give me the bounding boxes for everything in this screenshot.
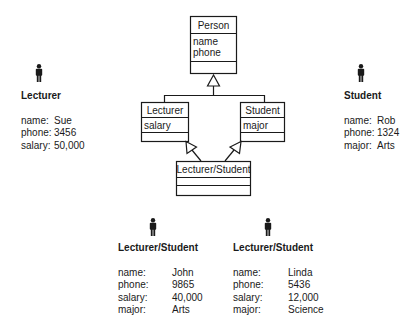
field-label: salary: bbox=[233, 292, 288, 305]
object-lecturer: Lecturer name: Sue phone: 3456 salary: 5… bbox=[21, 90, 85, 152]
field-value: 12,000 bbox=[288, 292, 319, 305]
field-label: name: bbox=[118, 267, 172, 280]
person-icon bbox=[358, 64, 364, 82]
object-title: Lecturer/Student bbox=[233, 242, 324, 255]
object-field: major: Arts bbox=[344, 140, 399, 153]
object-field: phone: 5436 bbox=[233, 279, 324, 292]
field-label: salary: bbox=[118, 292, 172, 305]
class-person-attr-name: name bbox=[193, 36, 218, 47]
field-label: major: bbox=[233, 304, 288, 317]
field-value: Science bbox=[288, 304, 324, 317]
object-field: salary: 12,000 bbox=[233, 292, 324, 305]
field-label: major: bbox=[344, 140, 377, 153]
class-lecturer-attr-salary: salary bbox=[144, 120, 171, 131]
object-field: name: Sue bbox=[21, 115, 85, 128]
object-lecturer-student-linda: Lecturer/Student name: Linda phone: 5436… bbox=[233, 242, 324, 317]
class-student-name: Student bbox=[245, 105, 280, 116]
field-label: phone: bbox=[344, 127, 377, 140]
class-diagram: Person name phone Lecturer salary Studen… bbox=[0, 0, 416, 332]
field-value: John bbox=[172, 267, 194, 280]
field-value: Arts bbox=[172, 304, 190, 317]
class-person-name: Person bbox=[198, 20, 230, 31]
field-label: name: bbox=[21, 115, 54, 128]
object-field: salary: 40,000 bbox=[118, 292, 203, 305]
object-field: name: John bbox=[118, 267, 203, 280]
object-field: name: Rob bbox=[344, 115, 399, 128]
field-label: phone: bbox=[118, 279, 172, 292]
object-student: Student name: Rob phone: 1324 major: Art… bbox=[344, 90, 399, 152]
object-title: Student bbox=[344, 90, 399, 103]
generalization-arrow-to-lecturer bbox=[186, 142, 201, 162]
object-field: major: Science bbox=[233, 304, 324, 317]
person-icon bbox=[150, 218, 156, 236]
object-title: Lecturer bbox=[21, 90, 85, 103]
object-field: phone: 1324 bbox=[344, 127, 399, 140]
object-field: major: Arts bbox=[118, 304, 203, 317]
object-field: phone: 9865 bbox=[118, 279, 203, 292]
class-person-attr-phone: phone bbox=[193, 47, 221, 58]
person-icon bbox=[36, 64, 42, 82]
field-value: 1324 bbox=[377, 127, 399, 140]
class-student-attr-major: major bbox=[243, 120, 269, 131]
field-value: 5436 bbox=[288, 279, 310, 292]
object-field: salary: 50,000 bbox=[21, 140, 85, 153]
field-label: phone: bbox=[233, 279, 288, 292]
class-lecturer-name: Lecturer bbox=[147, 105, 184, 116]
field-label: name: bbox=[344, 115, 377, 128]
class-lecturer-student-name: Lecturer/Student bbox=[177, 164, 251, 175]
generalization-arrow-to-person bbox=[165, 75, 265, 102]
object-field: phone: 3456 bbox=[21, 127, 85, 140]
field-value: 50,000 bbox=[54, 140, 85, 153]
field-value: 3456 bbox=[54, 127, 76, 140]
field-label: phone: bbox=[21, 127, 54, 140]
generalization-arrow-to-student bbox=[225, 142, 241, 162]
field-label: major: bbox=[118, 304, 172, 317]
field-value: Linda bbox=[288, 267, 312, 280]
field-value: 40,000 bbox=[172, 292, 203, 305]
object-lecturer-student-john: Lecturer/Student name: John phone: 9865 … bbox=[118, 242, 203, 317]
field-label: name: bbox=[233, 267, 288, 280]
field-label: salary: bbox=[21, 140, 54, 153]
object-field: name: Linda bbox=[233, 267, 324, 280]
field-value: Arts bbox=[377, 140, 395, 153]
field-value: Sue bbox=[54, 115, 72, 128]
field-value: Rob bbox=[377, 115, 395, 128]
person-icon bbox=[265, 218, 271, 236]
field-value: 9865 bbox=[172, 279, 194, 292]
object-title: Lecturer/Student bbox=[118, 242, 203, 255]
